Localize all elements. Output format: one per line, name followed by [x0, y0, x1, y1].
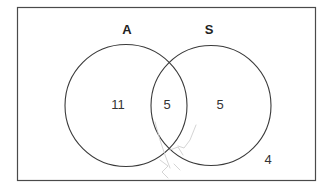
intersection-count: 5 — [163, 98, 170, 111]
venn-diagram — [0, 0, 325, 185]
set-s-only-count: 5 — [216, 98, 223, 111]
set-s-label: S — [205, 23, 214, 36]
set-a-label: A — [122, 23, 131, 36]
set-a-only-count: 11 — [111, 98, 125, 111]
outside-count: 4 — [264, 153, 271, 166]
pencil-sketch-marks — [155, 122, 196, 178]
